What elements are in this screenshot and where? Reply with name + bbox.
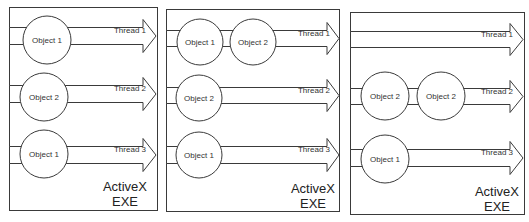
thread-label: Thread 1 — [298, 29, 331, 38]
thread-label: Thread 1 — [114, 26, 147, 35]
object-label: Object 1 — [29, 150, 59, 159]
panel-3: Thread 1Thread 2Object 2Object 2Thread 3… — [351, 13, 525, 215]
object-node: Object 2 — [361, 72, 409, 120]
thread-label: Thread 1 — [481, 30, 514, 39]
thread-label: Thread 2 — [481, 87, 514, 96]
exe-label: EXE — [300, 196, 326, 211]
object-label: Object 2 — [426, 92, 456, 101]
object-node: Object 1 — [176, 132, 222, 178]
object-node: Object 1 — [361, 135, 409, 183]
activex-label: ActiveX — [475, 184, 519, 199]
thread-label: Thread 3 — [298, 145, 331, 154]
thread-label: Thread 3 — [481, 148, 514, 157]
object-node: Object 2 — [176, 75, 222, 121]
object-node: Object 2 — [20, 73, 68, 121]
exe-label: EXE — [112, 194, 138, 209]
object-label: Object 2 — [29, 93, 59, 102]
object-label: Object 2 — [370, 92, 400, 101]
object-label: Object 1 — [185, 38, 215, 47]
activex-label: ActiveX — [103, 179, 147, 194]
object-label: Object 1 — [32, 36, 62, 45]
threading-diagram: Thread 1Object 1Thread 2Object 2Thread 3… — [0, 0, 529, 222]
activex-label: ActiveX — [291, 181, 335, 196]
object-label: Object 2 — [184, 94, 214, 103]
object-node: Object 1 — [20, 130, 68, 178]
object-label: Object 1 — [184, 151, 214, 160]
thread-label: Thread 3 — [114, 145, 147, 154]
object-node: Object 1 — [23, 16, 71, 64]
panel-2: Thread 1Object 1Object 2Thread 2Object 2… — [167, 10, 340, 212]
object-label: Object 1 — [370, 155, 400, 164]
thread-label: Thread 2 — [114, 84, 147, 93]
thread-label: Thread 2 — [298, 86, 331, 95]
exe-label: EXE — [484, 199, 510, 214]
object-label: Object 2 — [238, 38, 268, 47]
object-node: Object 2 — [230, 19, 276, 65]
object-node: Object 1 — [177, 19, 223, 65]
object-node: Object 2 — [417, 72, 465, 120]
panel-1: Thread 1Object 1Thread 2Object 2Thread 3… — [10, 8, 158, 211]
